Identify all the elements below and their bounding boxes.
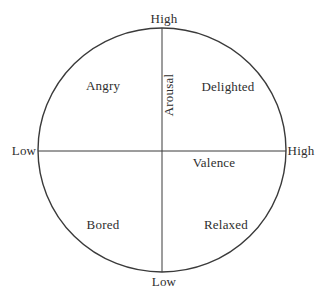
diagram-canvas	[0, 0, 323, 297]
axis-end-label-top: High	[151, 12, 178, 25]
valence-axis-label: Valence	[193, 156, 236, 169]
axis-end-label-right: High	[288, 144, 315, 157]
quadrant-label-bored: Bored	[87, 218, 120, 231]
axis-end-label-left: Low	[12, 144, 36, 157]
arousal-axis-label: Arousal	[162, 74, 175, 117]
axis-end-label-bottom: Low	[152, 275, 176, 288]
quadrant-label-relaxed: Relaxed	[204, 218, 248, 231]
quadrant-label-delighted: Delighted	[201, 80, 254, 93]
quadrant-label-angry: Angry	[86, 79, 120, 92]
circumplex-diagram: High Low Low High Arousal Valence Angry …	[0, 0, 323, 297]
